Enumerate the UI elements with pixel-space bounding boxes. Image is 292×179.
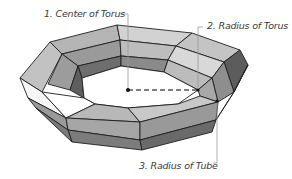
label-radius-of-tube: 3. Radius of Tube — [139, 160, 218, 171]
torus-radius-point — [196, 88, 199, 91]
center-point — [126, 88, 130, 92]
torus-diagram: 1. Center of Torus 2. Radius of Torus 3.… — [0, 0, 292, 179]
tube-radius-point — [215, 99, 218, 102]
label-center-of-torus: 1. Center of Torus — [44, 8, 125, 19]
label-radius-of-torus: 2. Radius of Torus — [207, 20, 288, 31]
